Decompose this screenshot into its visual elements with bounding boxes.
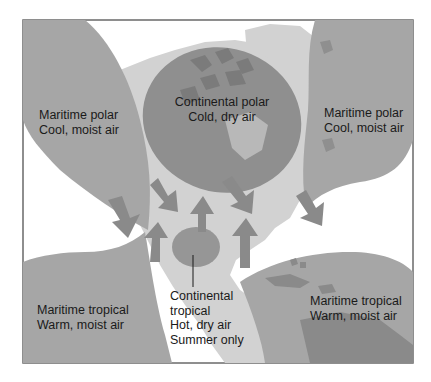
air-mass-description: Cool, moist air (39, 123, 119, 138)
label-maritime-polar-west: Maritime polar Cool, moist air (39, 108, 119, 137)
air-mass-name: Continental (170, 289, 244, 304)
air-mass-description: Hot, dry air (170, 318, 244, 333)
air-mass-name: Maritime tropical (310, 294, 402, 309)
air-mass-name: Maritime polar (324, 106, 404, 121)
air-mass-name: Maritime polar (39, 108, 119, 123)
label-maritime-tropical-west: Maritime tropical Warm, moist air (37, 303, 129, 332)
air-mass-description: Cool, moist air (324, 121, 404, 136)
continental-tropical-region (172, 227, 220, 267)
air-mass-description: Warm, moist air (310, 309, 402, 324)
air-mass-description: Cold, dry air (162, 110, 282, 125)
label-continental-tropical: Continental tropical Hot, dry air Summer… (170, 289, 244, 347)
label-maritime-tropical-east: Maritime tropical Warm, moist air (310, 294, 402, 323)
air-mass-name-line2: tropical (170, 304, 244, 319)
air-mass-description: Warm, moist air (37, 318, 129, 333)
label-continental-polar: Continental polar Cold, dry air (162, 95, 282, 124)
air-mass-note: Summer only (170, 333, 244, 348)
label-maritime-polar-east: Maritime polar Cool, moist air (324, 106, 404, 135)
air-mass-name: Maritime tropical (37, 303, 129, 318)
air-mass-name: Continental polar (162, 95, 282, 110)
